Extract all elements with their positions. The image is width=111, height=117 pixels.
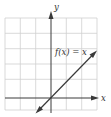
x-axis-label: x [101, 93, 106, 103]
function-label: f(x) = x [54, 47, 87, 57]
y-axis-label: y [53, 2, 59, 12]
y-axis-arrow-icon [49, 11, 54, 19]
x-axis-arrow-icon [91, 96, 99, 101]
function-graph: y x f(x) = x [0, 0, 111, 117]
